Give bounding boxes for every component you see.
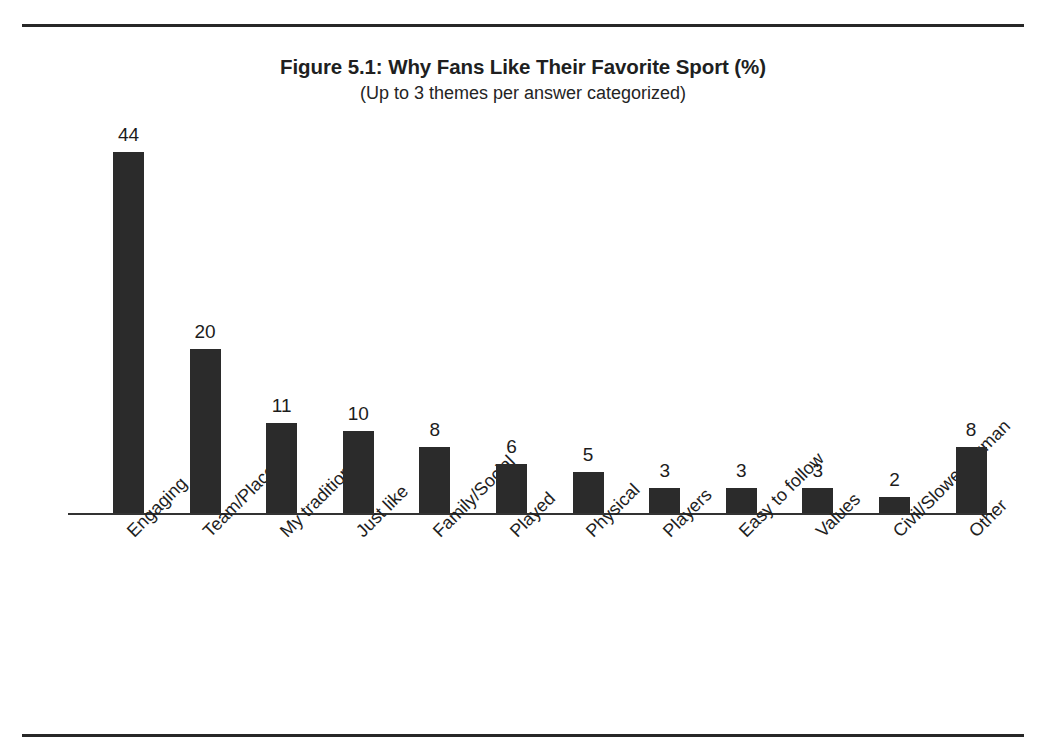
bar-value-label: 3 xyxy=(635,461,695,481)
bar-value-label: 3 xyxy=(711,461,771,481)
bar-value-label: 2 xyxy=(865,470,925,490)
bar xyxy=(573,472,604,513)
bar-value-label: 10 xyxy=(328,404,388,424)
bar-value-label: 44 xyxy=(99,125,159,145)
bar xyxy=(113,152,144,513)
figure-page: Figure 5.1: Why Fans Like Their Favorite… xyxy=(0,0,1046,755)
bar-value-label: 3 xyxy=(788,461,848,481)
bar-value-label: 5 xyxy=(558,445,618,465)
bar-value-label: 20 xyxy=(175,322,235,342)
bar-value-label: 8 xyxy=(405,420,465,440)
bar-value-label: 11 xyxy=(252,396,312,416)
bar xyxy=(190,349,221,513)
bar xyxy=(956,447,987,513)
bar xyxy=(419,447,450,513)
bar-value-label: 8 xyxy=(941,420,1001,440)
bar xyxy=(496,464,527,513)
bar-value-label: 6 xyxy=(482,437,542,457)
bar xyxy=(343,431,374,513)
bar-chart-plot: 44Engaging20Team/Place11My tradition10Ju… xyxy=(0,0,1046,755)
bar xyxy=(266,423,297,513)
